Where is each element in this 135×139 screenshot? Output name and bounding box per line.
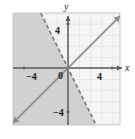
y-tick-label-negative-4: −4 <box>53 108 64 118</box>
x-tick-label-negative-4: −4 <box>26 72 37 82</box>
y-tick-label-positive-4: 4 <box>55 26 60 36</box>
x-tick-label-positive-4: 4 <box>97 72 102 82</box>
origin-label: 0 <box>58 71 63 81</box>
x-axis-label: x <box>125 63 129 73</box>
coordinate-plane-svg <box>0 0 135 139</box>
y-axis-label: y <box>64 2 68 12</box>
graph-figure: y x −4 4 4 −4 0 <box>0 0 135 139</box>
